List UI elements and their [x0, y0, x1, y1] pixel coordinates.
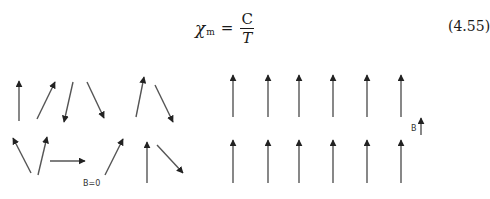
- random-moments-panel: [13, 77, 183, 183]
- moment-arrow-icon: [37, 82, 55, 119]
- moment-arrow-icon: [87, 82, 104, 118]
- moment-arrow-icon: [157, 145, 183, 173]
- magnetic-moment-figure: B=0 B: [0, 0, 490, 199]
- moment-arrow-icon: [105, 139, 123, 175]
- b-zero-label: B=0: [83, 179, 100, 188]
- moment-arrow-icon: [136, 77, 144, 117]
- moment-arrow-icon: [155, 85, 173, 122]
- moment-arrow-icon: [38, 137, 47, 175]
- b-field-label: B: [411, 124, 417, 133]
- aligned-moments-panel: [233, 75, 401, 183]
- moment-arrow-icon: [64, 82, 73, 122]
- moment-arrow-icon: [13, 138, 31, 173]
